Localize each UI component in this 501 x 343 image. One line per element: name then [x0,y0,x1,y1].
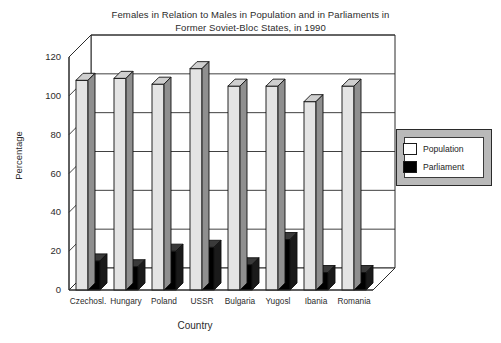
legend-label-population: Population [423,144,464,154]
bar-population-0-side [88,73,95,290]
x-tick-label-0: Czechosl. [58,296,118,306]
y-tick-label-60: 60 [27,168,61,179]
bar-population-2-front [152,84,164,290]
bar-population-4-front [228,86,240,290]
bar-population-5-front [266,86,278,290]
bar-population-1-side [126,71,133,290]
chart-legend: Population Parliament [396,129,492,186]
bar-population-7-side [354,79,361,290]
legend-item-parliament: Parliament [403,161,464,173]
bar-population-3-front [190,69,202,290]
y-tick-label-20: 20 [27,245,61,256]
bar-population-4-side [240,79,247,290]
y-tick-label-80: 80 [27,129,61,140]
y-tick-label-40: 40 [27,206,61,217]
bar-population-6-front [304,102,316,290]
parliament-swatch [403,161,417,173]
bar-population-5-side [278,79,285,290]
bar-population-1 [114,71,133,290]
bar-population-6 [304,95,323,290]
chart-figure: Females in Relation to Males in Populati… [0,0,501,343]
bar-parliament-2-side [176,244,183,290]
bar-population-3 [190,62,209,290]
bar-parliament-3-side [214,240,221,290]
bar-population-7 [342,79,361,290]
y-tick-label-0: 0 [27,284,61,295]
bar-population-4 [228,79,247,290]
bar-population-2 [152,77,171,290]
legend-item-population: Population [403,143,464,155]
bar-population-0-front [76,80,88,290]
population-swatch [403,143,417,155]
bar-population-2-side [164,77,171,290]
bar-population-1-front [114,78,126,290]
bar-population-5 [266,79,285,290]
bar-parliament-0-side [100,254,107,290]
y-tick-label-100: 100 [27,90,61,101]
bar-parliament-5-side [290,233,297,290]
bar-population-7-front [342,86,354,290]
bar-population-3-side [202,62,209,290]
bar-population-6-side [316,95,323,290]
legend-label-parliament: Parliament [423,162,464,172]
y-tick-label-120: 120 [27,51,61,62]
bar-population-0 [76,73,95,290]
